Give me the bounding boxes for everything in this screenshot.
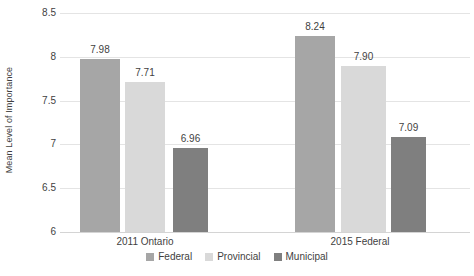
y-tick-label: 7 [18,139,56,149]
y-tick-label: 8.5 [18,8,56,18]
y-axis-tick-labels: 8.5 8 7.5 7 6.5 6 [0,0,56,276]
gridline [60,101,470,102]
bar-value-label: 7.98 [90,45,109,55]
legend-item-label: Federal [158,252,192,262]
legend: Federal Provincial Municipal [0,252,474,262]
legend-item-provincial[interactable]: Provincial [205,252,260,262]
bar[interactable]: 7.98 [80,59,120,232]
y-tick-label: 8 [18,52,56,62]
legend-item-federal[interactable]: Federal [146,252,192,262]
bar[interactable]: 7.09 [391,137,426,232]
y-tick-label: 7.5 [18,96,56,106]
x-axis-category-label: 2015 Federal [331,236,390,247]
bar[interactable]: 8.24 [295,36,335,232]
bar-value-label: 7.71 [135,68,154,78]
legend-swatch-icon [205,253,213,261]
legend-swatch-icon [274,253,282,261]
y-tick-label: 6.5 [18,183,56,193]
gridline [60,13,470,14]
legend-item-municipal[interactable]: Municipal [274,252,328,262]
bar[interactable]: 7.71 [125,82,165,232]
bar-value-label: 7.90 [354,52,373,62]
gridline [60,57,470,58]
bar-value-label: 8.24 [305,22,324,32]
bar-chart: Mean Level of Importance 8.5 8 7.5 7 6.5… [0,0,474,276]
y-tick-label: 6 [18,227,56,237]
bar[interactable]: 6.96 [173,148,208,232]
plot-area: 7.98 7.71 6.96 8.24 7.90 7.09 [60,13,470,233]
x-axis-category-label: 2011 Ontario [116,236,173,247]
bar-value-label: 7.09 [399,123,418,133]
legend-item-label: Provincial [217,252,260,262]
legend-swatch-icon [146,253,154,261]
bar-value-label: 6.96 [181,134,200,144]
bar[interactable]: 7.90 [341,66,386,232]
legend-item-label: Municipal [286,252,328,262]
